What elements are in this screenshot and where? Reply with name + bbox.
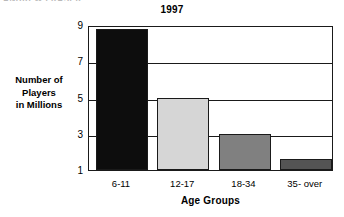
y-axis-title-line-3: in Millions xyxy=(2,99,76,112)
chart-title: 1997 xyxy=(0,4,344,15)
bar-35-over xyxy=(280,159,332,170)
y-tick-label-3: 3 xyxy=(69,129,83,140)
y-tick-label-9: 9 xyxy=(69,20,83,31)
bar-18-34 xyxy=(219,134,271,170)
y-axis-title: Number of Players in Millions xyxy=(2,74,76,112)
y-tick-label-5: 5 xyxy=(69,93,83,104)
y-axis-title-line-1: Number of xyxy=(2,74,76,87)
bar-12-17 xyxy=(157,98,209,171)
x-axis-title: Age Groups xyxy=(88,195,333,206)
bar-6-11 xyxy=(96,29,148,170)
y-axis-title-line-2: Players xyxy=(2,87,76,100)
clipped-header-artifact: ANDREW FRASER xyxy=(3,0,82,1)
plot-area xyxy=(88,26,333,171)
x-tick-label-35-over: 35- over xyxy=(265,178,344,189)
y-tick-label-1: 1 xyxy=(69,165,83,176)
y-tick-label-7: 7 xyxy=(69,56,83,67)
